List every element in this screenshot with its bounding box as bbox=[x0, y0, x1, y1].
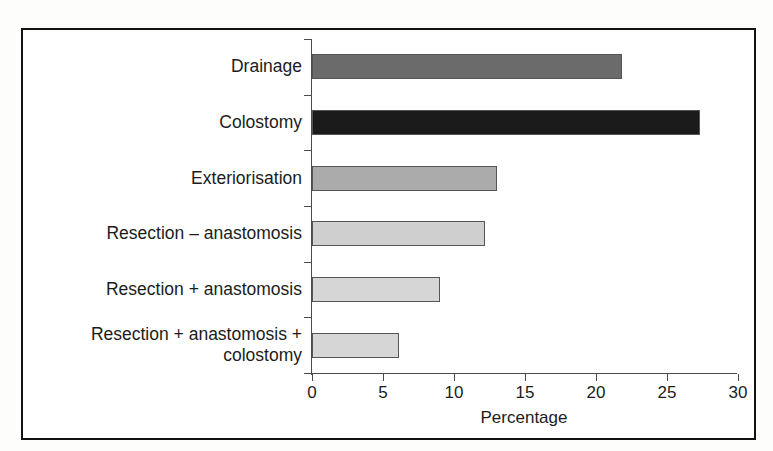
x-tick-5 bbox=[383, 374, 384, 381]
x-tick-15 bbox=[525, 374, 526, 381]
bar-0 bbox=[312, 54, 622, 79]
x-tick-label-30: 30 bbox=[716, 383, 760, 403]
scanned-page-background: 051015202530 DrainageColostomyExterioris… bbox=[0, 0, 773, 451]
y-tick-2 bbox=[304, 150, 312, 151]
x-tick-20 bbox=[596, 374, 597, 381]
y-tick-0 bbox=[304, 39, 312, 40]
category-label-0: Drainage bbox=[2, 56, 302, 77]
bar-1 bbox=[312, 110, 700, 135]
y-tick-4 bbox=[304, 262, 312, 263]
figure-frame: 051015202530 DrainageColostomyExterioris… bbox=[21, 28, 756, 440]
x-axis-title: Percentage bbox=[311, 408, 737, 428]
x-tick-label-20: 20 bbox=[574, 383, 618, 403]
category-label-1: Colostomy bbox=[2, 112, 302, 133]
plot-area: 051015202530 DrainageColostomyExterioris… bbox=[23, 30, 758, 442]
x-tick-label-15: 15 bbox=[503, 383, 547, 403]
x-tick-30 bbox=[738, 374, 739, 381]
bar-5 bbox=[312, 333, 399, 358]
x-tick-10 bbox=[454, 374, 455, 381]
x-tick-label-25: 25 bbox=[645, 383, 689, 403]
x-tick-label-10: 10 bbox=[432, 383, 476, 403]
category-label-3: Resection – anastomosis bbox=[2, 223, 302, 244]
bar-3 bbox=[312, 221, 485, 246]
category-label-5: Resection + anastomosis + colostomy bbox=[2, 324, 302, 366]
x-tick-label-0: 0 bbox=[290, 383, 334, 403]
x-axis-line bbox=[311, 373, 737, 374]
y-tick-1 bbox=[304, 95, 312, 96]
x-tick-label-5: 5 bbox=[361, 383, 405, 403]
y-tick-3 bbox=[304, 206, 312, 207]
y-tick-5 bbox=[304, 317, 312, 318]
x-tick-25 bbox=[667, 374, 668, 381]
x-tick-0 bbox=[312, 374, 313, 381]
bar-4 bbox=[312, 277, 440, 302]
category-label-4: Resection + anastomosis bbox=[2, 279, 302, 300]
bar-2 bbox=[312, 166, 497, 191]
category-label-2: Exteriorisation bbox=[2, 168, 302, 189]
y-axis-line bbox=[311, 39, 312, 375]
y-tick-6 bbox=[304, 373, 312, 374]
